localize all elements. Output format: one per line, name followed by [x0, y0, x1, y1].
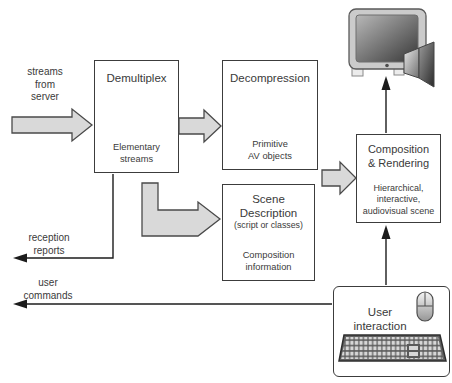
- monitor-icon: [349, 9, 426, 76]
- interaction-to-composition-arrow: [382, 225, 391, 285]
- demultiplex-to-scene-description-arrow: [142, 183, 220, 236]
- decompression-title: Decompression: [230, 61, 310, 85]
- composition-rendering-title: Composition & Rendering: [368, 135, 429, 170]
- demultiplex-title: Demultiplex: [106, 61, 166, 85]
- scene-description-title: Scene Description: [240, 185, 298, 220]
- decompression-note: Primitive AV objects: [248, 139, 292, 169]
- server-to-demultiplex-arrow: [12, 109, 92, 141]
- scene-description-subtitle: (script or classes): [234, 220, 303, 231]
- composition-to-display-arrow: [382, 76, 391, 133]
- composition-rendering-note: Hierarchical, interactive, audiovisual s…: [363, 183, 435, 223]
- speaker-icon: [404, 42, 434, 87]
- user-interaction-title: User interaction: [340, 295, 420, 333]
- scene-description-box: Scene Description (script or classes) Co…: [222, 184, 315, 281]
- mpeg4-player-architecture-diagram: streams from server reception reports us…: [0, 0, 452, 383]
- demultiplex-note: Elementary streams: [113, 142, 160, 172]
- user-commands-label: user commands: [15, 277, 81, 302]
- composition-rendering-box: Composition & Rendering Hierarchical, in…: [356, 134, 441, 223]
- to-composition-rendering-arrow: [322, 162, 356, 194]
- scene-description-note: Composition information: [243, 250, 295, 280]
- streams-from-server-label: streams from server: [12, 66, 78, 104]
- demultiplex-to-decompression-arrow: [179, 110, 221, 142]
- user-interaction-box: User interaction: [333, 286, 450, 377]
- reception-reports-label: reception reports: [19, 232, 79, 257]
- demultiplex-box: Demultiplex Elementary streams: [94, 60, 179, 173]
- decompression-box: Decompression Primitive AV objects: [222, 60, 318, 170]
